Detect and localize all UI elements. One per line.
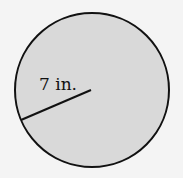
circle-diagram: 7 in. [0, 0, 183, 178]
radius-label: 7 in. [39, 74, 77, 94]
